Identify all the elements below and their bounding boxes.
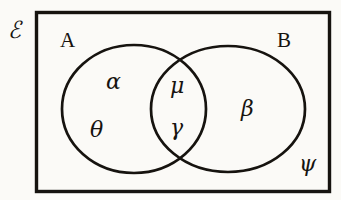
- universal-set-label: ℰ: [8, 19, 21, 43]
- element-gamma-label: γ: [170, 117, 183, 139]
- element-beta-label: β: [241, 98, 254, 120]
- element-mu-label: μ: [170, 75, 184, 97]
- set-a-label: A: [60, 30, 75, 51]
- set-b-label: B: [277, 30, 291, 51]
- venn-diagram-figure: ℰ A B α θ μ γ β ψ: [0, 0, 341, 200]
- element-psi-label: ψ: [299, 153, 316, 175]
- set-b-circle: [151, 46, 305, 172]
- element-alpha-label: α: [106, 71, 121, 93]
- set-a-circle: [62, 45, 206, 173]
- element-theta-label: θ: [90, 119, 103, 141]
